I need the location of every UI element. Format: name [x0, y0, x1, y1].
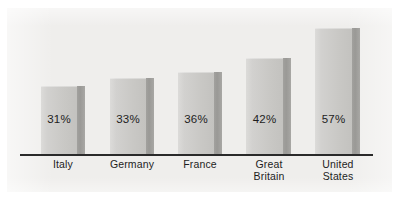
category-label-line: Britain — [238, 171, 300, 183]
category-label-line: France — [168, 159, 232, 171]
category-label-great-britain: Great Britain — [238, 159, 300, 182]
bar-great-britain — [246, 58, 291, 155]
bar-group-great-britain: 42% — [246, 58, 291, 155]
category-label-line: United — [307, 159, 369, 171]
category-label-italy: Italy — [33, 159, 93, 171]
bar-group-united-states: 57% — [315, 28, 360, 155]
bar-group-italy: 31% — [41, 86, 85, 155]
plot-area: 31% 33% 36% 42% — [0, 0, 401, 199]
category-label-line: States — [307, 171, 369, 183]
bar-value-great-britain: 42% — [246, 114, 291, 126]
category-label-line: Italy — [33, 159, 93, 171]
category-label-germany: Germany — [99, 159, 165, 171]
category-label-united-states: United States — [307, 159, 369, 182]
bar-value-united-states: 57% — [315, 114, 360, 126]
bar-value-italy: 31% — [41, 114, 85, 126]
bar-chart-figure: 31% 33% 36% 42% — [0, 0, 401, 199]
category-label-line: Great — [238, 159, 300, 171]
bar-group-france: 36% — [178, 72, 222, 155]
bar-side-shadow — [283, 58, 291, 155]
category-label-line: Germany — [99, 159, 165, 171]
bar-value-germany: 33% — [110, 114, 154, 126]
bar-value-france: 36% — [178, 114, 222, 126]
bar-united-states — [315, 28, 360, 155]
category-axis-line — [20, 154, 373, 156]
category-label-france: France — [168, 159, 232, 171]
bar-group-germany: 33% — [110, 78, 154, 155]
bar-side-shadow — [352, 28, 360, 155]
